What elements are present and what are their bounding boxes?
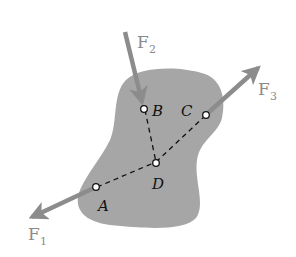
svg-text:3: 3 [270, 90, 277, 103]
svg-text:F: F [137, 32, 149, 52]
svg-text:1: 1 [40, 235, 47, 248]
point-A [93, 184, 100, 191]
label-A: A [96, 197, 109, 215]
force-diagram: B C D A F 2 F 3 F 1 [0, 0, 296, 257]
svg-text:F: F [258, 79, 270, 99]
svg-text:2: 2 [149, 43, 156, 56]
label-F2: F 2 [137, 32, 156, 56]
label-C: C [181, 102, 193, 120]
label-B: B [151, 102, 163, 120]
label-F3: F 3 [258, 79, 277, 103]
point-C [203, 112, 210, 119]
svg-text:F: F [28, 224, 40, 244]
point-B [141, 106, 148, 113]
label-D: D [151, 175, 164, 193]
label-F1: F 1 [28, 224, 47, 248]
point-D [153, 160, 160, 167]
